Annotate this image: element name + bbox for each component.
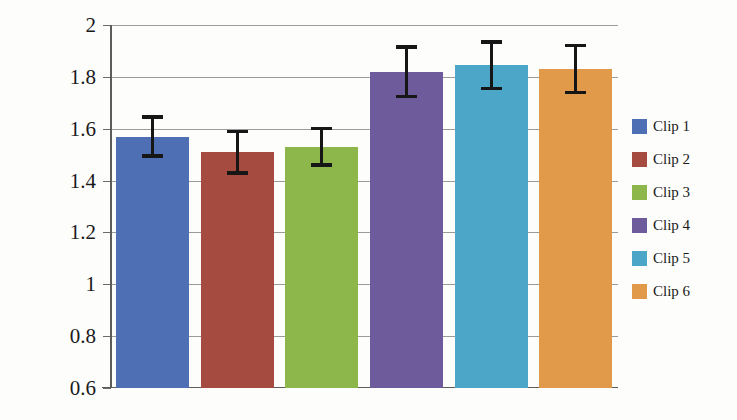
error-bar-cap-upper xyxy=(481,40,502,44)
error-bar-cap-upper xyxy=(227,130,248,134)
error-bar-stem xyxy=(490,42,493,89)
error-bar-stem xyxy=(405,47,408,96)
legend-label: Clip 1 xyxy=(653,118,690,135)
legend-label: Clip 2 xyxy=(653,151,690,168)
legend-item[interactable]: Clip 6 xyxy=(632,275,732,308)
y-axis-tick-label: 2 xyxy=(86,13,97,38)
y-axis-tick-label: 0.8 xyxy=(70,324,96,349)
error-bar-cap-upper xyxy=(565,44,586,48)
error-bar-cap-lower xyxy=(227,171,248,175)
error-bar-stem xyxy=(574,46,577,93)
y-axis-tick-label: 1.2 xyxy=(70,220,96,245)
error-bar-cap-lower xyxy=(481,87,502,91)
legend-label: Clip 5 xyxy=(653,250,690,267)
bar xyxy=(201,152,274,388)
legend-label: Clip 3 xyxy=(653,184,690,201)
legend-label: Clip 6 xyxy=(653,283,690,300)
error-bar-cap-upper xyxy=(311,127,332,131)
error-bar-cap-lower xyxy=(396,95,417,99)
error-bar-cap-lower xyxy=(311,163,332,167)
y-axis-tick-label: 1.8 xyxy=(70,64,96,89)
y-axis-tick xyxy=(103,388,111,389)
plot-area xyxy=(110,25,618,388)
error-bar-stem xyxy=(151,117,154,156)
bar xyxy=(285,147,358,388)
bar xyxy=(370,72,443,388)
legend: Clip 1Clip 2Clip 3Clip 4Clip 5Clip 6 xyxy=(632,110,732,308)
y-axis-tick-labels: 0.60.811.21.41.61.82 xyxy=(44,0,102,420)
legend-swatch-icon xyxy=(632,218,647,233)
error-bar-cap-upper xyxy=(396,45,417,49)
legend-item[interactable]: Clip 2 xyxy=(632,143,732,176)
chart-figure: DFA Scaling Exponent 0.60.811.21.41.61.8… xyxy=(0,0,737,420)
y-axis-tick-label: 1.4 xyxy=(70,168,96,193)
y-axis-tick-label: 0.6 xyxy=(70,376,96,401)
legend-swatch-icon xyxy=(632,251,647,266)
legend-label: Clip 4 xyxy=(653,217,690,234)
legend-swatch-icon xyxy=(632,152,647,167)
legend-item[interactable]: Clip 1 xyxy=(632,110,732,143)
legend-item[interactable]: Clip 4 xyxy=(632,209,732,242)
error-bar-cap-lower xyxy=(142,154,163,158)
legend-item[interactable]: Clip 3 xyxy=(632,176,732,209)
error-bar-stem xyxy=(320,129,323,165)
bar xyxy=(455,65,528,388)
bar-series xyxy=(110,25,618,388)
gridline xyxy=(110,388,618,389)
error-bar-stem xyxy=(236,131,239,172)
error-bar-cap-upper xyxy=(142,115,163,119)
bar xyxy=(539,69,612,388)
error-bar-cap-lower xyxy=(565,91,586,95)
y-axis-tick-label: 1 xyxy=(86,272,97,297)
y-axis-tick-label: 1.6 xyxy=(70,116,96,141)
bar xyxy=(116,137,189,389)
legend-swatch-icon xyxy=(632,119,647,134)
legend-item[interactable]: Clip 5 xyxy=(632,242,732,275)
legend-swatch-icon xyxy=(632,185,647,200)
legend-swatch-icon xyxy=(632,284,647,299)
